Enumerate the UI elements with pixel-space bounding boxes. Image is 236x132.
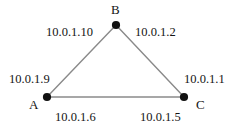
node-a-dot — [43, 93, 51, 101]
interface-label-b-left: 10.0.1.10 — [46, 26, 93, 39]
graph-canvas — [0, 0, 236, 132]
node-label-b: B — [111, 3, 120, 16]
interface-label-b-right: 10.0.1.2 — [135, 26, 176, 39]
interface-label-c-upper: 10.0.1.1 — [184, 73, 225, 86]
node-c-dot — [180, 93, 188, 101]
interface-label-c-lower: 10.0.1.5 — [140, 111, 181, 124]
node-b-dot — [112, 21, 120, 29]
interface-label-a-lower: 10.0.1.6 — [55, 111, 96, 124]
node-label-a: A — [29, 98, 38, 111]
network-topology-diagram: B A C 10.0.1.10 10.0.1.2 10.0.1.9 10.0.1… — [0, 0, 236, 132]
node-label-c: C — [196, 98, 205, 111]
interface-label-a-upper: 10.0.1.9 — [9, 73, 50, 86]
